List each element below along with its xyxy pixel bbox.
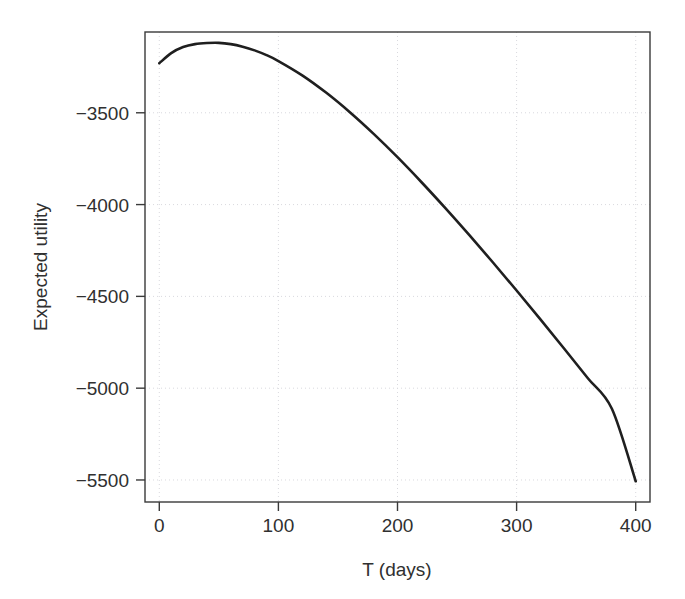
chart-figure: 0100200300400 −3500−4000−4500−5000−5500 …	[0, 0, 685, 599]
x-tick-label: 200	[382, 515, 414, 536]
x-tick-label: 300	[501, 515, 533, 536]
x-tick-label: 400	[620, 515, 652, 536]
y-tick-label: −5000	[76, 378, 129, 399]
y-tick-label: −5500	[76, 470, 129, 491]
x-axis-title: T (days)	[362, 559, 431, 580]
expected-utility-line-chart: 0100200300400 −3500−4000−4500−5000−5500 …	[0, 0, 685, 599]
y-tick-label: −4000	[76, 195, 129, 216]
x-tick-label: 100	[263, 515, 295, 536]
y-tick-label: −4500	[76, 286, 129, 307]
x-tick-label: 0	[154, 515, 165, 536]
y-axis-title: Expected utility	[30, 203, 51, 331]
y-tick-label: −3500	[76, 103, 129, 124]
